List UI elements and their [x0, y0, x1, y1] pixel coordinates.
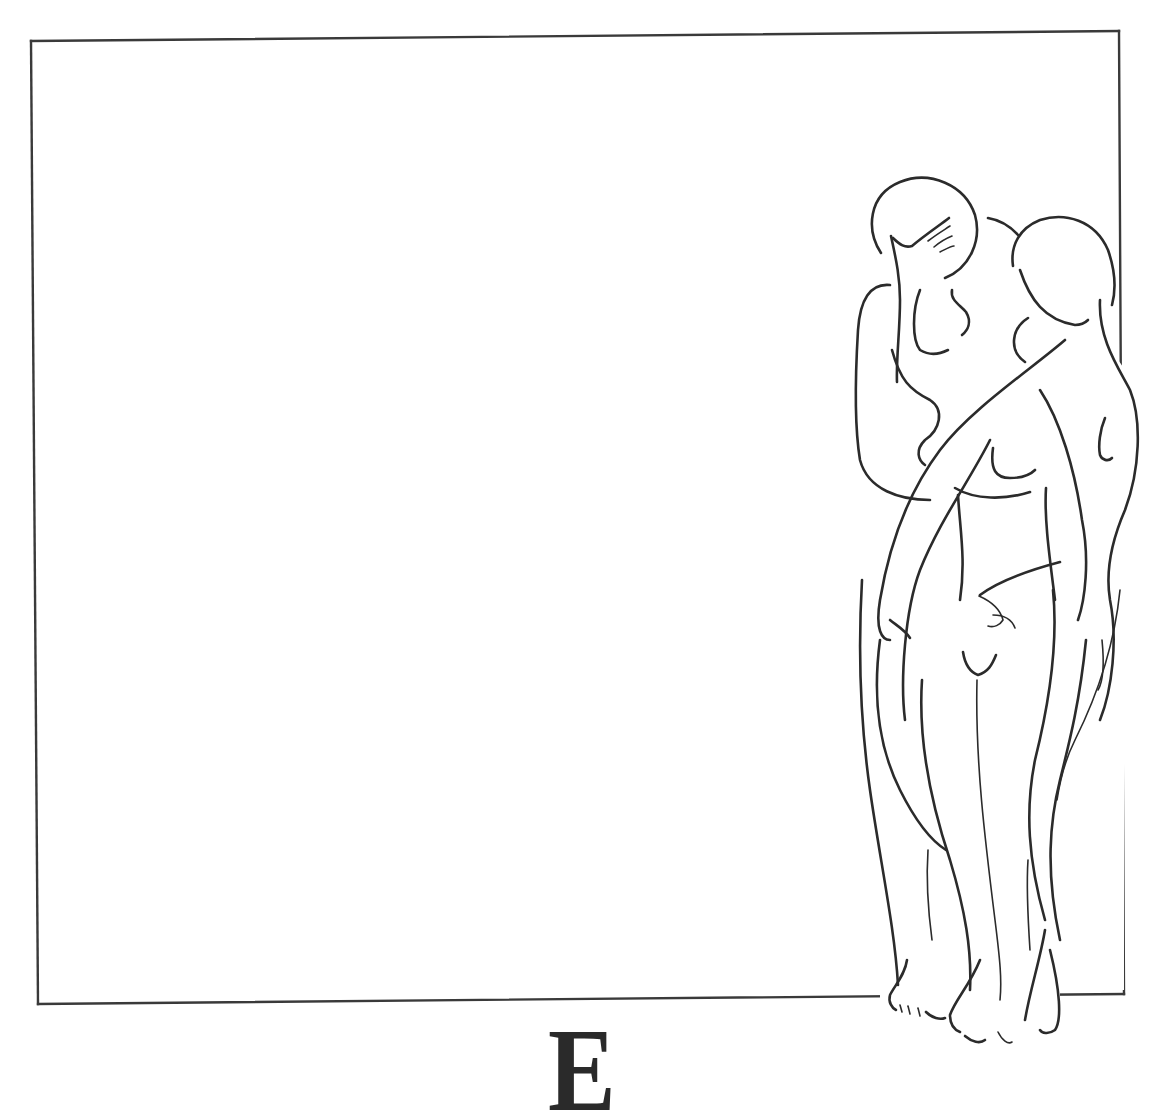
drop-cap-letter: E [548, 1012, 616, 1114]
frame-left-edge [31, 41, 38, 1004]
frame-top-edge [31, 31, 1119, 41]
